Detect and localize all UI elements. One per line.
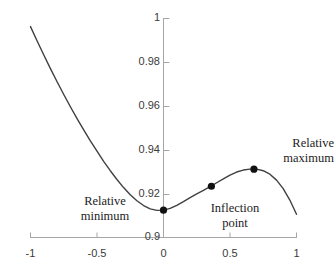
y-tick-label-0.96: 0.96 <box>108 100 160 111</box>
data-point-relative-maximum <box>250 166 257 173</box>
relative-maximum-annotation: Relative maximum <box>244 136 334 166</box>
inflection-point-line2: point <box>194 216 276 231</box>
y-tick-label-1: 1 <box>108 12 160 23</box>
relative-minimum-line2: minimum <box>58 209 152 224</box>
x-tick-label-1: 1 <box>276 248 317 259</box>
x-tick-label--1: -1 <box>10 248 51 259</box>
inflection-point-line1: Inflection <box>194 201 276 216</box>
x-tick-label-0: 0 <box>143 248 184 259</box>
relative-maximum-line2: maximum <box>244 151 334 166</box>
relative-minimum-line1: Relative <box>58 194 152 209</box>
x-tick-label--0.5: -0.5 <box>76 248 118 259</box>
y-tick-label-0.94: 0.94 <box>108 144 160 155</box>
data-point-relative-minimum <box>160 207 167 214</box>
relative-minimum-annotation: Relative minimum <box>58 194 152 224</box>
y-axis-ticks <box>164 19 170 238</box>
relative-maximum-line1: Relative <box>244 136 334 151</box>
chart-container: 1 0.98 0.96 0.94 0.92 0.9 -1 -0.5 0 0.5 … <box>0 0 336 279</box>
x-tick-label-0.5: 0.5 <box>209 248 251 259</box>
data-point-inflection-point <box>208 183 215 190</box>
y-tick-label-0.9: 0.9 <box>108 231 160 242</box>
y-tick-label-0.98: 0.98 <box>108 56 160 67</box>
inflection-point-annotation: Inflection point <box>194 201 276 231</box>
